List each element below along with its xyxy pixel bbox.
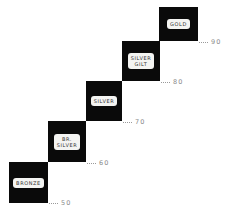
dotted-leader xyxy=(87,163,96,164)
threshold-60: 60 xyxy=(87,159,109,167)
label-silver-gilt: SILVER GILT xyxy=(128,53,155,69)
dotted-leader xyxy=(199,42,208,43)
threshold-value: 90 xyxy=(211,38,221,46)
dotted-leader xyxy=(49,203,58,204)
step-bronze: BRONZE xyxy=(9,162,48,203)
label-bronze: BRONZE xyxy=(13,178,44,188)
dotted-leader xyxy=(161,82,170,83)
step-gold: GOLD xyxy=(159,7,198,41)
threshold-value: 70 xyxy=(135,118,145,126)
threshold-80: 80 xyxy=(161,78,183,86)
threshold-value: 80 xyxy=(173,78,183,86)
step-silver-gilt: SILVER GILT xyxy=(122,41,160,81)
dotted-leader xyxy=(123,122,132,123)
step-bronze-silver: BR. SILVER xyxy=(48,121,86,162)
threshold-value: 50 xyxy=(61,199,71,207)
threshold-90: 90 xyxy=(199,38,221,46)
label-silver: SILVER xyxy=(91,96,118,106)
label-bronze-silver: BR. SILVER xyxy=(54,134,81,150)
threshold-value: 60 xyxy=(99,159,109,167)
medal-staircase-diagram: BRONZE 50 BR. SILVER 60 SILVER 70 SILVER… xyxy=(0,0,243,215)
label-gold: GOLD xyxy=(167,19,190,29)
threshold-50: 50 xyxy=(49,199,71,207)
step-silver: SILVER xyxy=(86,81,122,121)
threshold-70: 70 xyxy=(123,118,145,126)
